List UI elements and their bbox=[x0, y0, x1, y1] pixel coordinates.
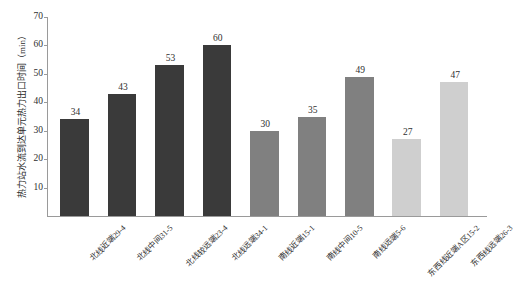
bar-group: 53 bbox=[147, 17, 194, 216]
bar-value-label: 60 bbox=[194, 33, 241, 43]
bar-group: 27 bbox=[384, 17, 431, 216]
bar[interactable] bbox=[392, 139, 420, 216]
bar-group: 49 bbox=[337, 17, 384, 216]
bar-group: 35 bbox=[289, 17, 336, 216]
bar-group: 47 bbox=[431, 17, 478, 216]
bar-group: 30 bbox=[242, 17, 289, 216]
bar[interactable] bbox=[155, 65, 183, 216]
bar-group: 43 bbox=[99, 17, 146, 216]
bar-value-label: 49 bbox=[337, 65, 384, 75]
bar-value-label: 30 bbox=[242, 119, 289, 129]
bar[interactable] bbox=[440, 82, 468, 216]
y-tick-label: 50 bbox=[22, 69, 43, 78]
bar-value-label: 47 bbox=[431, 70, 478, 80]
bar-value-label: 34 bbox=[52, 107, 99, 117]
y-tick-label: 20 bbox=[22, 154, 43, 163]
bar[interactable] bbox=[203, 45, 231, 216]
bar-group: 34 bbox=[52, 17, 99, 216]
bar-group: 60 bbox=[194, 17, 241, 216]
bar-value-label: 43 bbox=[99, 82, 146, 92]
y-tick-label: 10 bbox=[22, 183, 43, 192]
bar[interactable] bbox=[60, 119, 88, 216]
y-tick-label: 70 bbox=[22, 12, 43, 21]
plot-area: 344353603035492747 bbox=[47, 17, 486, 216]
bar-value-label: 27 bbox=[384, 127, 431, 137]
bar[interactable] bbox=[298, 117, 326, 217]
y-tick-label: 40 bbox=[22, 97, 43, 106]
y-tick-label: 30 bbox=[22, 126, 43, 135]
bar[interactable] bbox=[345, 77, 373, 216]
x-axis-line bbox=[47, 216, 487, 217]
bar[interactable] bbox=[250, 131, 278, 216]
bar-value-label: 53 bbox=[147, 53, 194, 63]
bar-value-label: 35 bbox=[289, 105, 336, 115]
bar[interactable] bbox=[108, 94, 136, 216]
y-tick-label: 60 bbox=[22, 40, 43, 49]
